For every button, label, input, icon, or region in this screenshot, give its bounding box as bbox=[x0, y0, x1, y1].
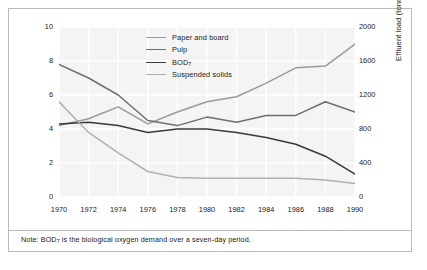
y-axis-left-tick-label: 8 bbox=[27, 56, 53, 65]
legend-item-label: Pulp bbox=[172, 45, 187, 54]
legend-item-subscript: 7 bbox=[188, 61, 191, 67]
y-axis-right-tick-label: 800 bbox=[359, 124, 389, 133]
x-axis-tick-label: 1980 bbox=[192, 205, 222, 214]
y-axis-right-title: Effluent load (tonnes/day) bbox=[394, 0, 403, 61]
x-axis-tick-label: 1972 bbox=[74, 205, 104, 214]
x-axis-tick-label: 1990 bbox=[340, 205, 370, 214]
x-axis-tick-label: 1988 bbox=[310, 205, 340, 214]
legend-item-label: Suspended solids bbox=[172, 70, 232, 79]
legend: Paper and boardPulpBOD7Suspended solids bbox=[146, 31, 232, 81]
y-axis-left-tick-label: 4 bbox=[27, 124, 53, 133]
y-axis-left-tick-label: 6 bbox=[27, 90, 53, 99]
chart-frame: Production (million tonnes/year) Effluen… bbox=[8, 8, 412, 252]
figure: Production (million tonnes/year) Effluen… bbox=[0, 0, 427, 270]
legend-item-label: Paper and board bbox=[172, 33, 229, 42]
x-axis-tick-label: 1984 bbox=[251, 205, 281, 214]
legend-swatch-icon bbox=[146, 74, 166, 75]
chart-note: Note: BOD7 is the biological oxygen dema… bbox=[21, 235, 401, 244]
legend-item-label: BOD7 bbox=[172, 58, 191, 67]
x-axis-tick-label: 1976 bbox=[133, 205, 163, 214]
y-axis-left-tick-label: 0 bbox=[27, 192, 53, 201]
x-axis-tick-label: 1986 bbox=[281, 205, 311, 214]
legend-item: Suspended solids bbox=[146, 69, 232, 82]
legend-item: Pulp bbox=[146, 44, 232, 57]
x-axis-tick-label: 1978 bbox=[162, 205, 192, 214]
legend-swatch-icon bbox=[146, 37, 166, 38]
legend-swatch-icon bbox=[146, 49, 166, 50]
x-axis-tick-label: 1982 bbox=[222, 205, 252, 214]
note-divider bbox=[9, 230, 411, 231]
y-axis-right-tick-label: 1200 bbox=[359, 90, 389, 99]
legend-item: Paper and board bbox=[146, 31, 232, 44]
y-axis-right-tick-label: 0 bbox=[359, 192, 389, 201]
y-axis-right-tick-label: 2000 bbox=[359, 22, 389, 31]
y-axis-right-tick-label: 1600 bbox=[359, 56, 389, 65]
y-axis-left-tick-label: 10 bbox=[27, 22, 53, 31]
note-prefix: Note: BOD bbox=[21, 235, 57, 244]
legend-swatch-icon bbox=[146, 62, 166, 63]
legend-item: BOD7 bbox=[146, 56, 232, 69]
y-axis-right-tick-label: 400 bbox=[359, 158, 389, 167]
x-axis-tick-label: 1974 bbox=[103, 205, 133, 214]
x-axis-tick-label: 1970 bbox=[44, 205, 74, 214]
y-axis-left-tick-label: 2 bbox=[27, 158, 53, 167]
note-suffix: is the biological oxygen demand over a s… bbox=[60, 235, 251, 244]
